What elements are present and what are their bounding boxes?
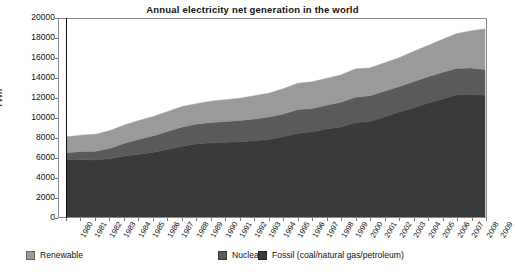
x-tick-mark xyxy=(211,218,212,221)
x-tick-label: 1994 xyxy=(281,220,297,239)
legend-item-label: Fossil (coal/natural gas/petroleum) xyxy=(272,250,404,260)
x-tick-mark xyxy=(225,218,226,221)
x-tick-label: 2003 xyxy=(412,220,428,239)
x-tick-label: 1982 xyxy=(107,220,123,239)
x-tick-mark xyxy=(356,218,357,221)
chart-legend: RenewableNuclearFossil (coal/natural gas… xyxy=(0,250,505,270)
stacked-area-series xyxy=(59,19,486,217)
x-tick-mark xyxy=(283,218,284,221)
x-tick-label: 2002 xyxy=(397,220,413,239)
x-tick-mark xyxy=(385,218,386,221)
x-tick-label: 2004 xyxy=(426,220,442,239)
x-tick-mark xyxy=(457,218,458,221)
plot-area xyxy=(58,18,487,218)
x-tick-mark xyxy=(167,218,168,221)
x-tick-label: 1989 xyxy=(209,220,225,239)
x-tick-mark xyxy=(327,218,328,221)
x-tick-mark xyxy=(153,218,154,221)
x-tick-label: 1998 xyxy=(339,220,355,239)
x-tick-mark xyxy=(124,218,125,221)
x-tick-label: 1990 xyxy=(223,220,239,239)
x-tick-mark xyxy=(80,218,81,221)
x-tick-label: 1991 xyxy=(238,220,254,239)
x-tick-label: 1988 xyxy=(194,220,210,239)
x-tick-mark xyxy=(269,218,270,221)
x-tick-label: 1992 xyxy=(252,220,268,239)
x-tick-label: 1981 xyxy=(93,220,109,239)
x-tick-mark xyxy=(95,218,96,221)
x-tick-mark xyxy=(472,218,473,221)
x-tick-mark xyxy=(399,218,400,221)
legend-swatch-icon xyxy=(218,251,227,260)
legend-item[interactable]: Nuclear xyxy=(218,250,262,260)
x-tick-label: 1996 xyxy=(310,220,326,239)
x-tick-label: 2006 xyxy=(455,220,471,239)
legend-item[interactable]: Renewable xyxy=(26,250,83,260)
x-tick-label: 1984 xyxy=(136,220,152,239)
legend-item[interactable]: Fossil (coal/natural gas/petroleum) xyxy=(258,250,404,260)
x-tick-label: 2008 xyxy=(484,220,500,239)
x-tick-label: 2007 xyxy=(469,220,485,239)
x-tick-label: 1985 xyxy=(151,220,167,239)
x-tick-mark xyxy=(428,218,429,221)
x-tick-label: 1980 xyxy=(78,220,94,239)
x-tick-mark xyxy=(109,218,110,221)
x-tick-mark xyxy=(66,218,67,221)
x-tick-label: 1987 xyxy=(180,220,196,239)
x-tick-mark xyxy=(254,218,255,221)
axis-origin-line xyxy=(66,18,67,218)
x-tick-label: 1993 xyxy=(267,220,283,239)
legend-item-label: Renewable xyxy=(40,250,83,260)
x-tick-label: 2005 xyxy=(441,220,457,239)
x-tick-mark xyxy=(298,218,299,221)
x-tick-mark xyxy=(486,218,487,221)
x-tick-mark xyxy=(196,218,197,221)
x-tick-mark xyxy=(341,218,342,221)
x-tick-mark xyxy=(312,218,313,221)
x-tick-label: 1999 xyxy=(354,220,370,239)
x-tick-mark xyxy=(414,218,415,221)
x-tick-mark xyxy=(240,218,241,221)
legend-swatch-icon xyxy=(26,251,35,260)
x-tick-label: 1986 xyxy=(165,220,181,239)
x-tick-label: 1997 xyxy=(325,220,341,239)
x-tick-label: 2001 xyxy=(383,220,399,239)
x-tick-label: 1983 xyxy=(122,220,138,239)
x-tick-label: 2009 xyxy=(498,220,514,239)
legend-swatch-icon xyxy=(258,251,267,260)
x-tick-mark xyxy=(138,218,139,221)
x-tick-label: 2000 xyxy=(368,220,384,239)
x-tick-label: 1995 xyxy=(296,220,312,239)
x-tick-mark xyxy=(182,218,183,221)
x-tick-mark xyxy=(370,218,371,221)
x-tick-mark xyxy=(443,218,444,221)
